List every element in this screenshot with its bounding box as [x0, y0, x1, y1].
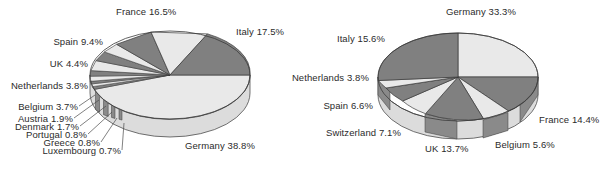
- left-label-italy: Italy 17.5%: [236, 26, 284, 37]
- right-label-spain: Spain 6.6%: [323, 100, 373, 111]
- left-pie-chart: France 16.5% Italy 17.5% Spain 9.4% UK 4…: [0, 0, 307, 184]
- left-label-uk: UK 4.4%: [50, 58, 88, 69]
- right-pie-chart: Germany 33.3% Italy 15.6% Netherlands 3.…: [307, 0, 614, 184]
- right-label-germany: Germany 33.3%: [446, 6, 516, 17]
- right-label-france: France 14.4%: [539, 114, 599, 125]
- right-label-switzerland: Switzerland 7.1%: [326, 127, 401, 138]
- left-label-netherlands: Netherlands 3.8%: [11, 80, 88, 91]
- right-pie-svg: [307, 0, 614, 184]
- left-label-luxembourg: Luxembourg 0.7%: [42, 145, 121, 156]
- left-label-germany: Germany 38.8%: [185, 140, 255, 151]
- right-label-uk: UK 13.7%: [425, 143, 469, 154]
- right-label-italy: Italy 15.6%: [337, 33, 385, 44]
- right-label-netherlands: Netherlands 3.8%: [292, 72, 369, 83]
- right-slice-germany: [458, 33, 538, 77]
- left-label-belgium: Belgium 3.7%: [18, 101, 78, 112]
- right-label-belgium: Belgium 5.6%: [495, 139, 555, 150]
- two-pie-chart-figure: France 16.5% Italy 17.5% Spain 9.4% UK 4…: [0, 0, 614, 184]
- left-label-france: France 16.5%: [116, 6, 176, 17]
- right-pie-geometry: [378, 33, 538, 139]
- left-label-spain: Spain 9.4%: [53, 36, 103, 47]
- left-pie-geometry: [74, 31, 250, 150]
- right-slice-italy: [378, 33, 458, 81]
